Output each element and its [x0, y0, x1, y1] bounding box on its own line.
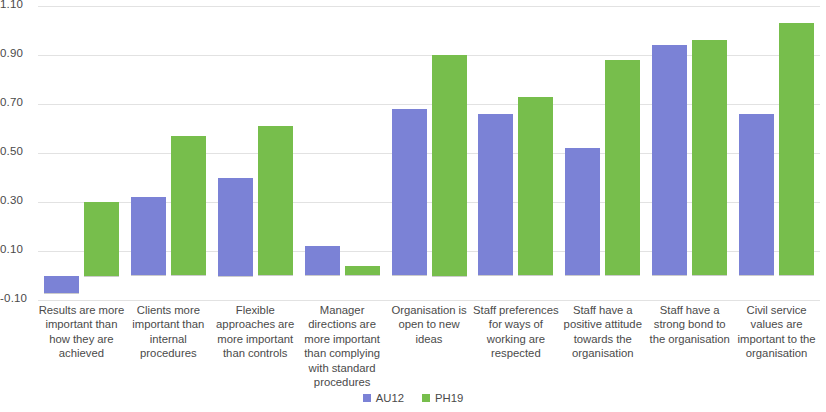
bar-AU12-4[interactable]: [392, 109, 427, 276]
bar-PH19-2[interactable]: [258, 126, 293, 275]
legend-label: PH19: [435, 392, 463, 404]
category-label: Staff have a positive attitude towards t…: [560, 303, 646, 361]
bar-PH19-3[interactable]: [345, 266, 380, 276]
category-label: Civil service values are important to th…: [734, 303, 820, 361]
plot-area: 1.100.900.700.500.300.10-0.10: [38, 6, 820, 300]
y-axis-tick-label: 0.50: [0, 145, 34, 157]
y-axis-tick-label: 0.90: [0, 47, 34, 59]
bar-PH19-4[interactable]: [432, 55, 467, 276]
bar-AU12-6[interactable]: [565, 148, 600, 275]
y-axis-tick-label: 0.10: [0, 243, 34, 255]
bar-AU12-8[interactable]: [739, 114, 774, 276]
y-axis-tick-label: 1.10: [0, 0, 34, 10]
bar-chart: 1.100.900.700.500.300.10-0.10 Results ar…: [0, 0, 826, 412]
legend-swatch-icon: [363, 394, 371, 402]
legend-item-AU12[interactable]: AU12: [363, 392, 404, 404]
category-label: Clients more important than internal pro…: [125, 303, 211, 361]
y-axis-tick-label: -0.10: [0, 292, 34, 304]
y-axis-tick-label: 0.30: [0, 194, 34, 206]
y-gridline: [38, 6, 820, 7]
category-label: Staff have a strong bond to the organisa…: [647, 303, 733, 346]
bar-AU12-2[interactable]: [218, 178, 253, 276]
category-label: Results are more important than how they…: [38, 303, 124, 361]
bar-AU12-1[interactable]: [131, 197, 166, 275]
bar-PH19-5[interactable]: [518, 97, 553, 276]
y-gridline: [38, 300, 820, 301]
bar-PH19-6[interactable]: [605, 60, 640, 276]
bar-AU12-3[interactable]: [305, 246, 340, 275]
legend-label: AU12: [376, 392, 404, 404]
bar-PH19-0[interactable]: [84, 202, 119, 276]
bar-PH19-8[interactable]: [779, 23, 814, 275]
category-label: Flexible approaches are more important t…: [212, 303, 298, 361]
bar-AU12-7[interactable]: [652, 45, 687, 275]
legend-item-PH19[interactable]: PH19: [422, 392, 463, 404]
chart-legend: AU12PH19: [0, 392, 826, 404]
bar-PH19-7[interactable]: [692, 40, 727, 275]
bar-PH19-1[interactable]: [171, 136, 206, 276]
category-label: Manager directions are more important th…: [299, 303, 385, 389]
legend-swatch-icon: [422, 394, 430, 402]
bar-AU12-5[interactable]: [478, 114, 513, 276]
category-label: Staff preferences for ways of working ar…: [473, 303, 559, 361]
category-axis: Results are more important than how they…: [38, 303, 820, 387]
bar-AU12-0[interactable]: [44, 276, 79, 293]
category-label: Organisation is open to new ideas: [386, 303, 472, 346]
y-axis-tick-label: 0.70: [0, 96, 34, 108]
